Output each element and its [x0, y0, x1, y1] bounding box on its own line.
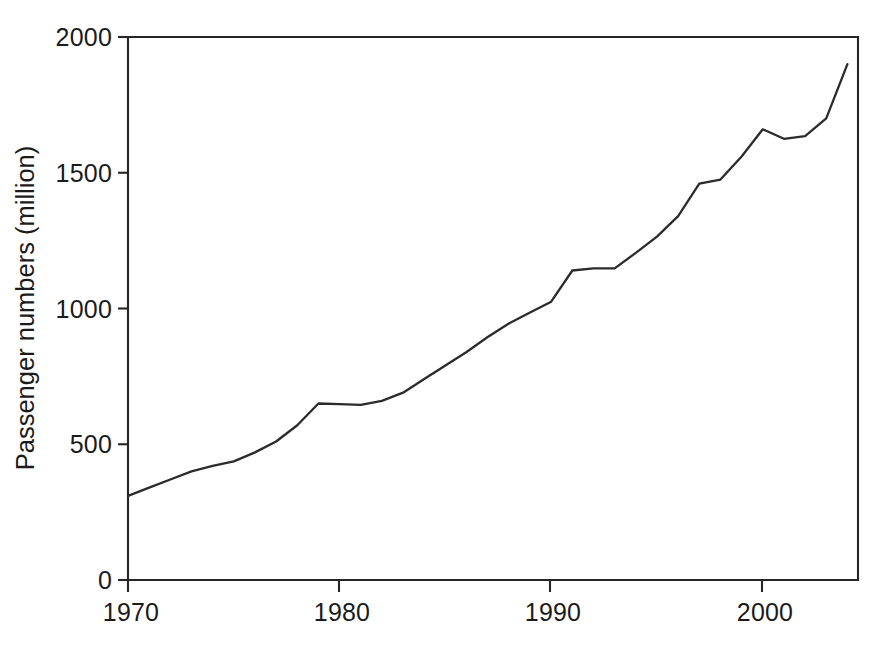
chart-svg: 0 500 1000 1500 2000 1970 1980 1990 2000 — [0, 0, 889, 645]
y-axis-tick-labels: 0 500 1000 1500 2000 — [56, 23, 112, 594]
y-tick-label-0: 0 — [98, 566, 112, 594]
axis-frame-path — [128, 37, 858, 580]
y-tick-label-1000: 1000 — [56, 295, 112, 323]
x-tick-label-1970: 1970 — [103, 598, 159, 626]
plot-frame — [128, 37, 858, 580]
y-tick-label-1500: 1500 — [56, 159, 112, 187]
x-tick-label-2000: 2000 — [737, 598, 793, 626]
data-series-line — [128, 64, 847, 496]
line-chart-figure: 0 500 1000 1500 2000 1970 1980 1990 2000 — [0, 0, 889, 645]
y-axis-title: Passenger numbers (million) — [11, 146, 39, 471]
x-tick-label-1990: 1990 — [525, 598, 581, 626]
x-axis-ticks — [128, 580, 762, 592]
y-axis-ticks — [118, 37, 128, 580]
y-tick-label-500: 500 — [70, 430, 112, 458]
x-axis-tick-labels: 1970 1980 1990 2000 — [103, 598, 793, 626]
y-tick-label-2000: 2000 — [56, 23, 112, 51]
figure-page: 0 500 1000 1500 2000 1970 1980 1990 2000 — [0, 0, 889, 645]
caption-fragment — [0, 631, 889, 645]
x-tick-label-1980: 1980 — [314, 598, 370, 626]
